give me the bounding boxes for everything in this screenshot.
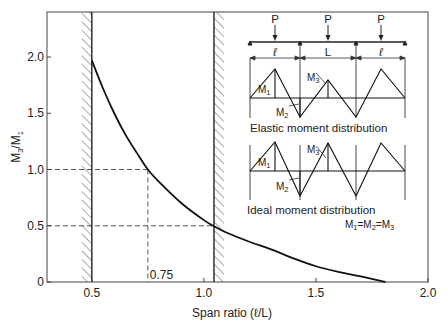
- load-arrow-icon: [273, 35, 278, 41]
- span-label-right: ℓ: [378, 46, 383, 58]
- svg-text:M3/M1: M3/M1: [9, 131, 25, 163]
- annotation-075: 0.75: [150, 268, 174, 282]
- load-arrows: PPP: [271, 13, 385, 41]
- elastic-moment-diagram: [250, 69, 405, 117]
- y-tick-label: 0.5: [27, 219, 44, 233]
- x-tick-label: 1.0: [196, 286, 213, 300]
- elastic-caption: Elastic moment distribution: [250, 122, 387, 134]
- load-label-p: P: [377, 13, 385, 25]
- ideal-caption: Ideal moment distribution: [247, 204, 375, 216]
- y-axis-title: M3/M1: [9, 131, 25, 163]
- load-label-p: P: [271, 13, 279, 25]
- span-label-left: ℓ: [272, 46, 277, 58]
- inset-beam-diagram: PPP ℓ L ℓ: [247, 13, 407, 232]
- y-tick-label: 1.5: [27, 106, 44, 120]
- ideal-label-m1: M1: [258, 157, 271, 170]
- limit-lines: [92, 12, 214, 282]
- y-tick-label: 2.0: [27, 50, 44, 64]
- ideal-note: M1=M2=M3: [345, 219, 394, 232]
- hatch-band-1: [214, 12, 224, 282]
- load-label-p: P: [324, 13, 332, 25]
- y-tick-label: 0: [37, 275, 44, 289]
- hatch-band-0: [82, 12, 92, 282]
- limit-hatches: [82, 12, 224, 282]
- load-arrow-icon: [379, 35, 384, 41]
- chart: 0.51.01.52.0 00.51.01.52.0 0.75 Span rat…: [0, 0, 448, 326]
- reference-lines: [47, 170, 214, 283]
- ideal-label-m2: M2: [276, 181, 289, 194]
- ideal-label-m3: M3: [307, 144, 320, 157]
- elastic-label-m3: M3: [307, 72, 320, 85]
- ideal-moment-diagram: [250, 142, 405, 196]
- load-arrow-icon: [326, 35, 331, 41]
- elastic-label-m2: M2: [276, 107, 289, 120]
- x-axis-title: Span ratio (ℓ/L): [192, 306, 272, 320]
- span-label-middle: L: [325, 46, 332, 58]
- x-tick-label: 1.5: [308, 286, 325, 300]
- x-tick-label: 2.0: [420, 286, 437, 300]
- x-tick-label: 0.5: [83, 286, 100, 300]
- plot-frame: [47, 12, 428, 282]
- y-tick-label: 1.0: [27, 163, 44, 177]
- elastic-label-m1: M1: [258, 84, 271, 97]
